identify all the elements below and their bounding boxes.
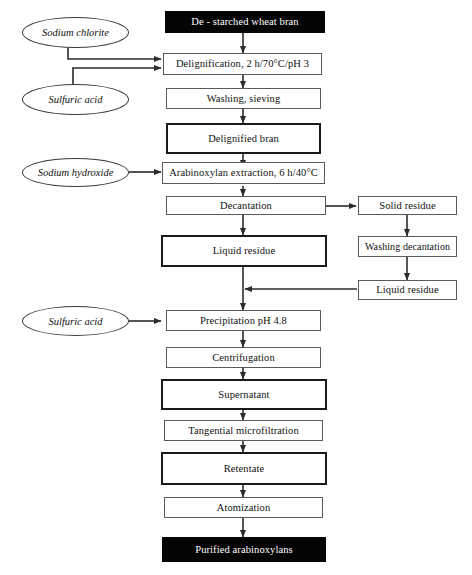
node-delignification[interactable]: Delignification, 2 h/70°C/pH 3: [163, 53, 322, 75]
node-decantation[interactable]: Decantation: [166, 196, 326, 215]
node-tangential-microfiltration[interactable]: Tangential microfiltration: [164, 420, 323, 441]
node-liquid-residue-side[interactable]: Liquid residue: [358, 280, 457, 300]
node-label: Precipitation pH 4.8: [200, 315, 287, 327]
node-delignified-bran[interactable]: Delignified bran: [166, 123, 321, 154]
arrow-sodium-chlorite-to-delignification: [68, 48, 161, 59]
node-washing-decantation[interactable]: Washing decantation: [358, 236, 457, 257]
node-purified-arabinoxylans[interactable]: Purified arabinoxylans: [162, 537, 326, 562]
node-label: Atomization: [217, 502, 271, 514]
node-label: Decantation: [220, 200, 272, 212]
arrow-sulfuric-acid-1-to-delignification: [73, 68, 161, 84]
node-label: Delignification, 2 h/70°C/pH 3: [176, 58, 309, 70]
node-label: Delignified bran: [208, 133, 279, 145]
node-de-starched-wheat-bran[interactable]: De - starched wheat bran: [165, 11, 325, 33]
node-label: Retentate: [224, 463, 265, 475]
node-solid-residue[interactable]: Solid residue: [358, 196, 457, 215]
node-label: Arabinoxylan extraction, 6 h/40°C: [169, 167, 318, 179]
reagent-label: Sulfuric acid: [49, 316, 103, 327]
node-supernatant[interactable]: Supernatant: [161, 379, 327, 410]
node-label: Tangential microfiltration: [188, 425, 299, 437]
node-label: Liquid residue: [213, 245, 275, 257]
node-liquid-residue-main[interactable]: Liquid residue: [161, 235, 327, 267]
reagent-sodium-hydroxide[interactable]: Sodium hydroxide: [22, 158, 129, 187]
node-arabinoxylan-extraction[interactable]: Arabinoxylan extraction, 6 h/40°C: [162, 162, 325, 184]
node-centrifugation[interactable]: Centrifugation: [166, 347, 321, 368]
node-retentate[interactable]: Retentate: [161, 452, 327, 485]
node-label: De - starched wheat bran: [191, 16, 298, 28]
flowchart-canvas: Sodium chlorite Sulfuric acid Sodium hyd…: [0, 0, 472, 575]
reagent-sodium-chlorite[interactable]: Sodium chlorite: [22, 17, 129, 48]
node-label: Centrifugation: [212, 352, 275, 364]
reagent-sulfuric-acid-1[interactable]: Sulfuric acid: [22, 84, 129, 115]
node-label: Supernatant: [218, 389, 269, 401]
node-precipitation[interactable]: Precipitation pH 4.8: [166, 310, 321, 331]
reagent-label: Sodium chlorite: [42, 27, 109, 38]
node-atomization[interactable]: Atomization: [164, 497, 323, 518]
node-label: Liquid residue: [376, 284, 438, 296]
node-label: Solid residue: [379, 200, 435, 212]
reagent-label: Sodium hydroxide: [38, 167, 114, 178]
node-washing-sieving[interactable]: Washing, sieving: [166, 88, 321, 109]
node-label: Washing, sieving: [207, 93, 281, 105]
reagent-sulfuric-acid-2[interactable]: Sulfuric acid: [22, 306, 129, 336]
node-label: Purified arabinoxylans: [195, 544, 293, 556]
node-label: Washing decantation: [365, 241, 450, 252]
reagent-label: Sulfuric acid: [49, 94, 103, 105]
